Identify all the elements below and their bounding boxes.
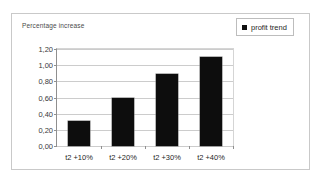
y-axis-tick-label: 0,80 (38, 77, 53, 86)
x-axis-tick-label: t2 +10% (65, 153, 93, 162)
x-axis-tick-label: t2 +20% (109, 153, 137, 162)
y-axis-tick-label: 1,20 (38, 45, 53, 54)
y-axis-tick-label: 0,60 (38, 93, 53, 102)
y-axis-tick-label: 0,00 (38, 142, 53, 151)
gridline (57, 49, 233, 50)
plot-area: 0,000,200,400,600,801,001,20t2 +10%t2 +2… (56, 48, 234, 147)
bar-t2-40-[interactable] (200, 57, 222, 146)
x-axis-tick-mark (101, 146, 102, 149)
x-axis-tick-mark (189, 146, 190, 149)
y-axis-tick-mark (54, 98, 57, 99)
bar-t2-10-[interactable] (68, 121, 90, 146)
y-axis-tick-mark (54, 114, 57, 115)
bar-t2-20-[interactable] (112, 98, 134, 147)
y-axis-tick-mark (54, 130, 57, 131)
y-axis-tick-label: 0,40 (38, 109, 53, 118)
x-axis-tick-mark (145, 146, 146, 149)
y-axis-tick-label: 0,20 (38, 125, 53, 134)
legend-label-profit-trend: profit trend (251, 23, 287, 32)
y-axis-tick-label: 1,00 (38, 61, 53, 70)
y-axis-tick-mark (54, 81, 57, 82)
x-axis-tick-label: t2 +30% (153, 153, 181, 162)
x-axis-tick-mark (233, 146, 234, 149)
y-axis-tick-mark (54, 65, 57, 66)
chart-frame: Percentage increase profit trend 0,000,2… (11, 13, 310, 170)
y-axis-tick-mark (54, 146, 57, 147)
legend-swatch-profit-trend-icon (242, 25, 247, 30)
bar-t2-30-[interactable] (156, 74, 178, 146)
x-axis-tick-label: t2 +40% (197, 153, 225, 162)
chart-legend: profit trend (236, 18, 294, 36)
y-axis-tick-mark (54, 49, 57, 50)
y-axis-title: Percentage increase (22, 22, 84, 29)
